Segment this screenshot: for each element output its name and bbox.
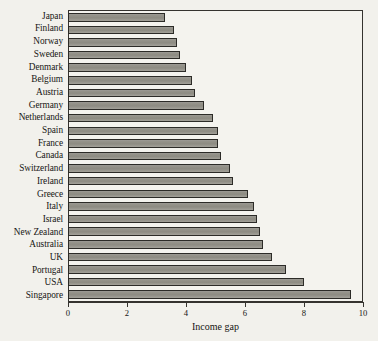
bar-row [69, 288, 362, 301]
category-label: Australia [0, 239, 66, 252]
x-axis-tick [127, 302, 128, 307]
category-label: Norway [0, 35, 66, 48]
x-axis-tick-label: 10 [359, 309, 368, 318]
category-label: Germany [0, 99, 66, 112]
bar-row [69, 238, 362, 251]
category-label: Belgium [0, 74, 66, 87]
bar [68, 51, 180, 60]
category-label: Ireland [0, 175, 66, 188]
bar-row [69, 112, 362, 125]
x-axis-tick-label: 2 [125, 309, 129, 318]
category-label: New Zealand [0, 226, 66, 239]
bar [68, 13, 165, 22]
bar-series [69, 11, 362, 301]
bar [68, 89, 195, 98]
bar [68, 76, 192, 85]
bar [68, 114, 213, 123]
x-axis-title: Income gap [68, 322, 363, 332]
category-label: Portugal [0, 264, 66, 277]
bar-row [69, 24, 362, 37]
x-axis-tick [245, 302, 246, 307]
bar-row [69, 49, 362, 62]
bar [68, 101, 204, 110]
bar-row [69, 225, 362, 238]
bar [68, 63, 186, 72]
bar [68, 177, 233, 186]
bar [68, 164, 230, 173]
bar-row [69, 251, 362, 264]
bar [68, 190, 248, 199]
x-axis-tick-label: 6 [243, 309, 247, 318]
bar-row [69, 36, 362, 49]
bar-row [69, 99, 362, 112]
bar-row [69, 61, 362, 74]
category-label: Finland [0, 23, 66, 36]
x-axis-tick [363, 302, 364, 307]
category-label: Canada [0, 150, 66, 163]
category-label: Italy [0, 201, 66, 214]
category-label: Austria [0, 86, 66, 99]
bar [68, 202, 254, 211]
bar [68, 290, 351, 299]
x-axis-tick [304, 302, 305, 307]
bar-row [69, 263, 362, 276]
bar-row [69, 162, 362, 175]
bar [68, 127, 218, 136]
bar [68, 152, 221, 161]
category-label: UK [0, 251, 66, 264]
bar [68, 215, 257, 224]
bar-row [69, 276, 362, 289]
bar [68, 26, 174, 35]
x-axis: 0246810 [68, 302, 363, 303]
category-label: Denmark [0, 61, 66, 74]
x-axis-tick-label: 0 [66, 309, 70, 318]
bar-row [69, 213, 362, 226]
bar-row [69, 87, 362, 100]
bar [68, 139, 218, 148]
bar-row [69, 175, 362, 188]
x-axis-tick-label: 8 [302, 309, 306, 318]
x-axis-tick-label: 4 [184, 309, 188, 318]
bar [68, 227, 260, 236]
category-label: Israel [0, 213, 66, 226]
bar [68, 278, 304, 287]
bar-row [69, 137, 362, 150]
category-label: Sweden [0, 48, 66, 61]
income-gap-bar-chart: JapanFinlandNorwaySwedenDenmarkBelgiumAu… [0, 0, 378, 341]
category-label: France [0, 137, 66, 150]
category-axis-labels: JapanFinlandNorwaySwedenDenmarkBelgiumAu… [0, 10, 66, 302]
bar-row [69, 188, 362, 201]
bar [68, 240, 263, 249]
bar-row [69, 124, 362, 137]
bar [68, 265, 286, 274]
x-axis-tick [68, 302, 69, 307]
category-label: Switzerland [0, 162, 66, 175]
bar-row [69, 74, 362, 87]
bar [68, 38, 177, 47]
category-label: Spain [0, 124, 66, 137]
category-label: Japan [0, 10, 66, 23]
category-label: USA [0, 277, 66, 290]
bar [68, 253, 272, 262]
bar-row [69, 150, 362, 163]
bar-row [69, 200, 362, 213]
category-label: Singapore [0, 289, 66, 302]
x-axis-tick [186, 302, 187, 307]
bar-row [69, 11, 362, 24]
category-label: Netherlands [0, 112, 66, 125]
category-label: Greece [0, 188, 66, 201]
plot-area [68, 10, 363, 302]
